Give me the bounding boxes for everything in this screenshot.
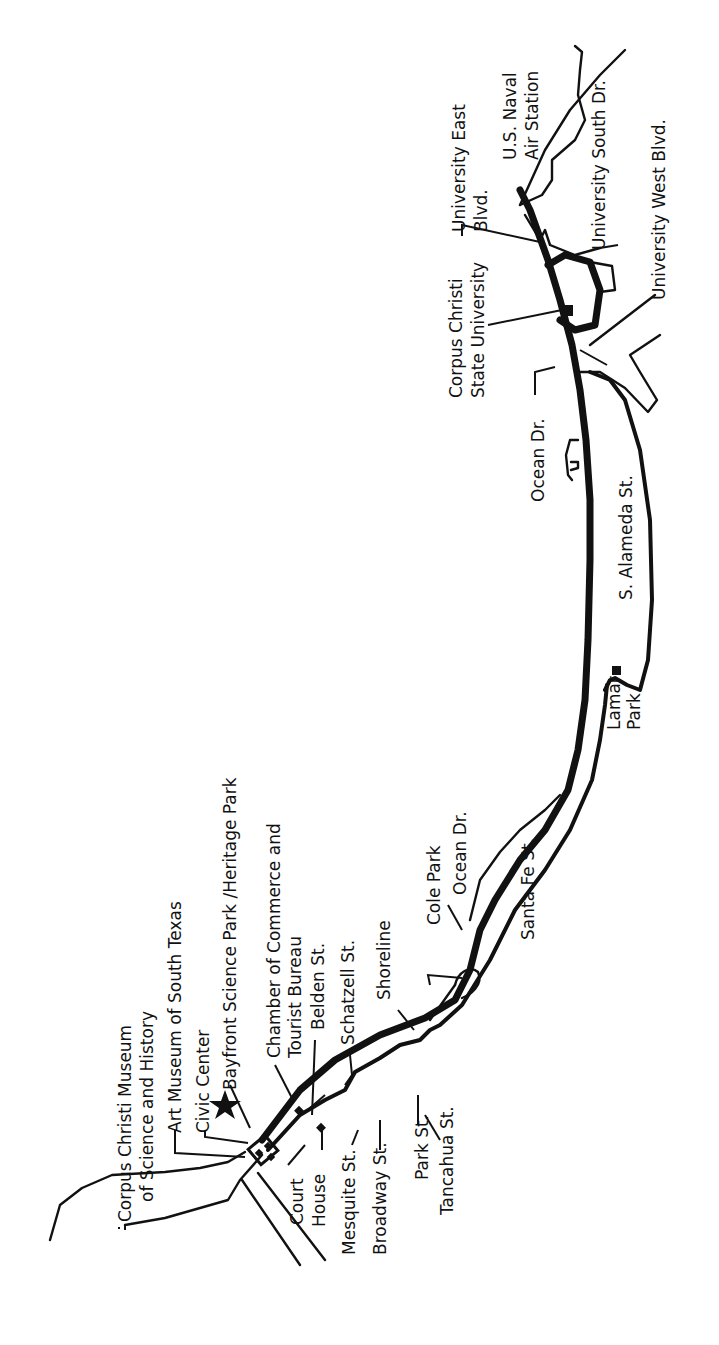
- label-lamar: Lamar: [604, 676, 624, 730]
- label-bayfront-park: Bayfront Science Park /Heritage Park: [220, 777, 240, 1090]
- label-shoreline: Shoreline: [374, 920, 394, 1000]
- label-corpus-christi-museum-2: of Science and History: [137, 1011, 157, 1202]
- label-schatzell-st: Schatzell St.: [338, 940, 358, 1045]
- label-cole-park: Cole Park: [424, 845, 444, 925]
- label-university-east: University East: [449, 104, 469, 232]
- label-broadway-st: Broadway St.: [370, 1142, 390, 1255]
- ocean-drive-inlet: [566, 440, 578, 480]
- map-canvas: Corpus Christi Museum of Science and His…: [0, 0, 719, 1345]
- label-house: House: [309, 1174, 329, 1227]
- label-air-station: Air Station: [522, 71, 542, 160]
- star-icon: [209, 1090, 241, 1119]
- label-art-museum: Art Museum of South Texas: [165, 901, 185, 1133]
- label-university-west-blvd: University West Blvd.: [649, 119, 669, 300]
- label-state-university: State University: [468, 262, 488, 398]
- label-court: Court: [287, 1178, 307, 1225]
- label-s-alameda-st: S. Alameda St.: [616, 475, 636, 600]
- label-tancahua-st: Tancahua St.: [437, 1106, 457, 1216]
- label-blvd: Blvd.: [471, 189, 491, 232]
- label-tourist-bureau: Tourist Bureau: [285, 936, 305, 1059]
- square-icon: [562, 305, 573, 316]
- label-ccsu: Corpus Christi: [446, 278, 466, 398]
- label-park-st: Park St.: [412, 1115, 432, 1180]
- label-civic-center: Civic Center: [193, 1030, 213, 1133]
- label-naval-station: U.S. Naval: [500, 72, 520, 160]
- label-park: Park: [624, 693, 644, 730]
- label-mesquite-st: Mesquite St.: [339, 1149, 359, 1255]
- label-corpus-christi-museum: Corpus Christi Museum: [115, 1025, 135, 1222]
- label-university-south-dr: University South Dr.: [589, 80, 609, 250]
- square-icon: [612, 666, 621, 675]
- label-chamber-of-commerce: Chamber of Commerce and: [264, 823, 284, 1058]
- label-belden-st: Belden St.: [308, 943, 328, 1030]
- label-ocean-dr-south: Ocean Dr.: [528, 418, 548, 502]
- label-santa-fe-st: Santa Fe St.: [518, 838, 538, 940]
- label-ocean-dr-north: Ocean Dr.: [450, 811, 470, 895]
